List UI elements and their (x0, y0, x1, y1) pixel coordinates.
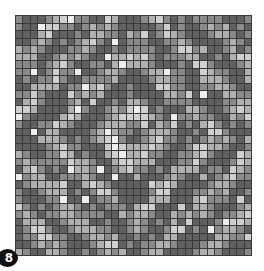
grid-cell (193, 189, 199, 196)
grid-cell (119, 61, 125, 68)
grid-cell (53, 121, 59, 128)
grid-cell (134, 211, 140, 218)
grid-cell (149, 174, 155, 181)
grid-cell (230, 174, 236, 181)
grid-cell (60, 99, 66, 106)
grid-cell (230, 91, 236, 98)
grid-cell (156, 226, 162, 233)
grid-cell (82, 219, 88, 226)
grid-cell (245, 91, 251, 98)
grid-cell (223, 249, 229, 256)
grid-cell (97, 181, 103, 188)
grid-cell (119, 16, 125, 23)
grid-cell (127, 196, 133, 203)
grid-cell (171, 61, 177, 68)
grid-cell (230, 226, 236, 233)
grid-cell (178, 204, 184, 211)
grid-cell (90, 204, 96, 211)
grid-cell (149, 181, 155, 188)
grid-cell (53, 189, 59, 196)
grid-cell (97, 61, 103, 68)
grid-cell (208, 121, 214, 128)
grid-cell (149, 219, 155, 226)
grid-cell (141, 166, 147, 173)
grid-cell (237, 204, 243, 211)
grid-cell (90, 166, 96, 173)
grid-cell (16, 144, 22, 151)
grid-cell (53, 211, 59, 218)
grid-cell (105, 106, 111, 113)
grid-cell (186, 106, 192, 113)
grid-cell (46, 114, 52, 121)
grid-cell (223, 219, 229, 226)
grid-cell (97, 106, 103, 113)
grid-cell (53, 136, 59, 143)
grid-cell (82, 144, 88, 151)
grid-cell (186, 84, 192, 91)
grid-cell (97, 136, 103, 143)
grid-cell (127, 84, 133, 91)
grid-cell (178, 219, 184, 226)
grid-cell (237, 219, 243, 226)
grid-cell (215, 159, 221, 166)
grid-cell (31, 61, 37, 68)
grid-cell (237, 39, 243, 46)
grid-cell (141, 234, 147, 241)
grid-cell (82, 189, 88, 196)
grid-cell (208, 211, 214, 218)
grid-cell (245, 166, 251, 173)
grid-cell (237, 84, 243, 91)
grid-cell (97, 84, 103, 91)
grid-cell (16, 196, 22, 203)
grid-cell (90, 106, 96, 113)
grid-cell (90, 159, 96, 166)
grid-cell (90, 46, 96, 53)
grid-cell (68, 31, 74, 38)
grid-cell (68, 181, 74, 188)
grid-cell (134, 24, 140, 31)
grid-cell (105, 241, 111, 248)
grid-cell (82, 16, 88, 23)
grid-cell (75, 106, 81, 113)
grid-cell (38, 91, 44, 98)
grid-cell (46, 129, 52, 136)
grid-cell (141, 76, 147, 83)
grid-cell (38, 159, 44, 166)
grid-cell (127, 181, 133, 188)
grid-cell (46, 211, 52, 218)
grid-cell (215, 46, 221, 53)
grid-cell (119, 204, 125, 211)
grid-cell (156, 24, 162, 31)
grid-cell (215, 174, 221, 181)
grid-cell (245, 129, 251, 136)
grid-cell (230, 151, 236, 158)
grid-cell (134, 106, 140, 113)
grid-cell (75, 84, 81, 91)
grid-cell (208, 241, 214, 248)
grid-cell (156, 129, 162, 136)
grid-cell (245, 189, 251, 196)
grid-cell (223, 84, 229, 91)
grid-cell (156, 121, 162, 128)
grid-cell (119, 174, 125, 181)
grid-cell (119, 69, 125, 76)
grid-cell (53, 31, 59, 38)
grid-cell (149, 114, 155, 121)
grid-cell (31, 189, 37, 196)
grid-cell (134, 91, 140, 98)
grid-cell (119, 31, 125, 38)
grid-cell (46, 151, 52, 158)
grid-cell (31, 16, 37, 23)
grid-cell (237, 234, 243, 241)
grid-cell (215, 24, 221, 31)
grid-cell (82, 136, 88, 143)
grid-cell (23, 249, 29, 256)
grid-cell (60, 91, 66, 98)
grid-cell (245, 61, 251, 68)
grid-cell (82, 24, 88, 31)
grid-cell (141, 151, 147, 158)
grid-cell (134, 31, 140, 38)
grid-cell (156, 211, 162, 218)
grid-cell (134, 76, 140, 83)
grid-cell (223, 121, 229, 128)
